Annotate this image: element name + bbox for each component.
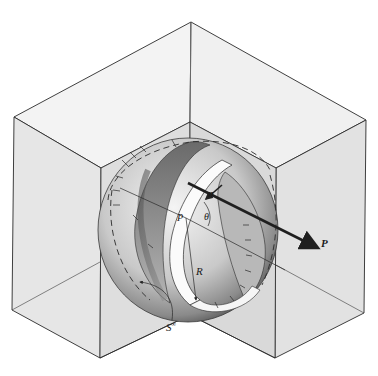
label-theta: θ bbox=[204, 211, 209, 222]
label-normal-n: n bbox=[208, 188, 214, 199]
label-point-p: P bbox=[176, 212, 183, 223]
sphere-in-cube-diagram: n θ P R S∞ P bbox=[0, 0, 378, 376]
label-force-p: P bbox=[321, 237, 328, 249]
label-surface-s: S∞ bbox=[166, 321, 177, 333]
label-radius-r: R bbox=[195, 265, 203, 277]
sphere bbox=[98, 138, 278, 322]
